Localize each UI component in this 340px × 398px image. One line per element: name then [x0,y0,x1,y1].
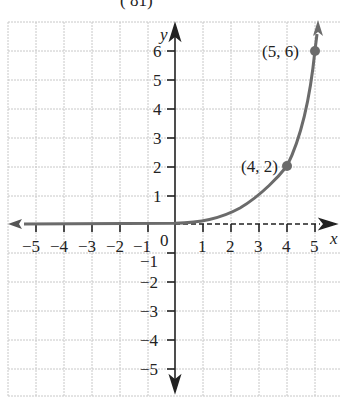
left-arrow-icon [8,219,22,229]
svg-text:−3: −3 [140,302,158,321]
svg-text:−2: −2 [106,237,124,256]
point-5-6 [310,46,320,56]
svg-text:−1: −1 [140,252,158,271]
svg-text:6: 6 [153,42,162,61]
svg-text:−3: −3 [78,237,96,256]
exponential-graph: ( 81) [0,0,340,398]
svg-text:−4: −4 [140,331,159,350]
svg-text:4: 4 [153,100,162,119]
svg-text:3: 3 [254,237,263,256]
point-label-5-6: (5, 6) [262,42,299,61]
x-axis-label: x [329,229,338,248]
origin-label: 0 [160,231,169,250]
svg-text:4: 4 [282,237,291,256]
point-label-4-2: (4, 2) [241,157,278,176]
svg-text:−5: −5 [22,237,40,256]
svg-text:−4: −4 [50,237,69,256]
svg-text:2: 2 [226,237,235,256]
svg-text:−2: −2 [140,273,158,292]
svg-text:5: 5 [310,237,319,256]
axes [36,24,336,392]
svg-text:1: 1 [153,187,162,206]
svg-text:3: 3 [153,129,162,148]
svg-text:−5: −5 [140,360,158,379]
labels: y x 0 (4, 2) (5, 6) −5 −4 −3 −2 −1 1 2 3… [22,25,338,379]
point-4-2 [282,161,292,171]
svg-text:2: 2 [153,158,162,177]
svg-text:5: 5 [153,71,162,90]
partial-title: ( 81) [120,0,153,10]
svg-text:1: 1 [198,237,207,256]
